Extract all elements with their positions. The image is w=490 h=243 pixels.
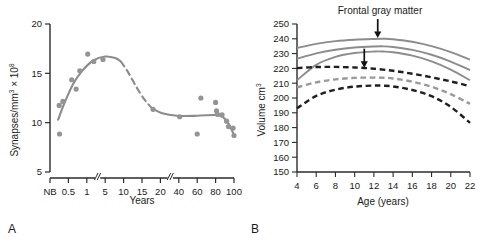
- panel-a-data-point: [213, 100, 218, 105]
- panel-a-curve-solid-left: [58, 56, 121, 119]
- panel-a-x-tick-label: 100: [226, 186, 242, 197]
- panel-a-y-tick-label: 15: [31, 68, 42, 79]
- panel-b-ylabel: Volume cm3: [255, 83, 267, 136]
- panel-b-x-tick-labels: 46810121416182022: [294, 180, 475, 191]
- panel-b-y-tick-label: 240: [273, 33, 289, 44]
- panel-a-data-point: [215, 112, 220, 117]
- panel-a-data-point: [219, 112, 224, 117]
- panel-b-y-tick-label: 150: [273, 166, 289, 177]
- panel-a-y-tick-label: 10: [31, 117, 42, 128]
- svg-text:Volume cm3: Volume cm3: [255, 83, 267, 136]
- panel-a-data-point: [177, 114, 182, 119]
- panel-b-x-tick-label: 14: [388, 180, 399, 191]
- panel-a-x-tick-label: NB: [43, 186, 56, 197]
- panel-b-series-curves: [297, 39, 470, 123]
- panel-a-data-point: [230, 125, 235, 130]
- panel-b: Frontal gray matter Volume cm3 150160170…: [245, 0, 490, 243]
- panel-a-data-point: [91, 59, 96, 64]
- panel-a-data-point: [226, 124, 231, 129]
- panel-a-xlabel: Years: [129, 195, 154, 206]
- panel-a-x-tick-label: 60: [192, 186, 203, 197]
- panel-a-curve-dashed-middle: [121, 61, 152, 108]
- panel-b-x-tick-label: 6: [314, 180, 319, 191]
- panel-b-y-tick-label: 200: [273, 92, 289, 103]
- panel-b-y-tick-label: 210: [273, 78, 289, 89]
- panel-b-x-tick-label: 4: [294, 180, 299, 191]
- panel-a: Synapses/mm3 × 108 5101520 NB0.515101520…: [0, 0, 245, 243]
- panel-a-data-point: [198, 95, 203, 100]
- panel-b-xlabel: Age (years): [357, 196, 409, 207]
- panel-a-axis-break: [167, 173, 173, 180]
- panel-b-x-tick-label: 10: [349, 180, 360, 191]
- panel-a-data-point: [231, 133, 236, 138]
- panel-a-data-point: [224, 119, 229, 124]
- panel-a-axis-break: [95, 173, 101, 180]
- panel-a-data-point: [74, 87, 79, 92]
- panel-a-data-point: [57, 131, 62, 136]
- panel-b-y-tick-label: 180: [273, 122, 289, 133]
- panel-a-axes: [45, 24, 234, 183]
- panel-a-data-point: [77, 68, 82, 73]
- panel-a-x-tick-label: 80: [210, 186, 221, 197]
- panel-b-y-tick-label: 230: [273, 48, 289, 59]
- panel-b-curve-male-lower-solid: [297, 51, 470, 80]
- panel-a-y-tick-label: 5: [37, 166, 42, 177]
- panel-b-x-tick-label: 8: [333, 180, 338, 191]
- panel-a-data-point: [85, 51, 90, 56]
- panel-a-data-points: [57, 51, 237, 138]
- panel-a-svg: Synapses/mm3 × 108 5101520 NB0.515101520…: [0, 0, 245, 243]
- panel-b-title: Frontal gray matter: [338, 5, 423, 16]
- panel-a-x-tick-label: 10: [118, 186, 129, 197]
- panel-a-data-point: [60, 99, 65, 104]
- panel-b-x-tick-label: 18: [426, 180, 437, 191]
- panel-b-x-tick-label: 16: [407, 180, 418, 191]
- panel-a-x-tick-label: 40: [174, 186, 185, 197]
- panel-a-data-point: [69, 77, 74, 82]
- panel-b-curve-male-upper-solid: [297, 39, 470, 60]
- panel-b-x-tick-label: 12: [369, 180, 380, 191]
- svg-text:Synapses/mm3 × 108: Synapses/mm3 × 108: [8, 63, 20, 157]
- panel-letter-b: B: [251, 222, 259, 236]
- panel-a-x-tick-label: 0.5: [62, 186, 75, 197]
- panel-a-data-point: [150, 107, 155, 112]
- arrow-head: [374, 32, 381, 39]
- panel-b-x-tick-label: 22: [465, 180, 476, 191]
- panel-b-peak-arrows: [361, 19, 382, 68]
- panel-a-x-tick-label: 5: [103, 186, 108, 197]
- panel-a-x-tick-label: 1: [84, 186, 89, 197]
- panel-b-curve-female-mid-dashed: [297, 78, 470, 104]
- panel-letter-a: A: [8, 222, 16, 236]
- panel-a-y-tick-labels: 5101520: [31, 18, 42, 177]
- panel-a-x-tick-label: 20: [155, 186, 166, 197]
- figure-container: Synapses/mm3 × 108 5101520 NB0.515101520…: [0, 0, 490, 243]
- panel-a-y-tick-label: 20: [31, 18, 42, 29]
- panel-a-data-point: [57, 103, 62, 108]
- panel-a-data-point: [195, 131, 200, 136]
- panel-b-y-tick-label: 220: [273, 63, 289, 74]
- panel-a-data-point: [100, 57, 105, 62]
- panel-b-arrow-peak-upper: [374, 19, 381, 38]
- panel-b-y-tick-label: 190: [273, 107, 289, 118]
- panel-b-y-tick-label: 170: [273, 137, 289, 148]
- panel-b-svg: Frontal gray matter Volume cm3 150160170…: [245, 0, 490, 243]
- panel-a-ylabel: Synapses/mm3 × 108: [8, 63, 20, 157]
- panel-b-y-tick-label: 250: [273, 18, 289, 29]
- panel-b-x-tick-label: 20: [445, 180, 456, 191]
- panel-b-y-tick-label: 160: [273, 152, 289, 163]
- panel-b-y-tick-labels: 150160170180190200210220230240250: [273, 18, 289, 177]
- panel-a-fit-curves: [58, 56, 234, 135]
